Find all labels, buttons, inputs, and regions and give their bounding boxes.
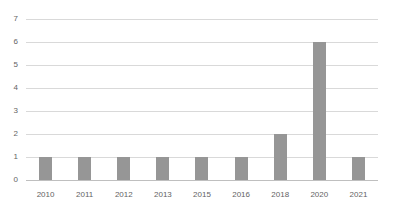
bar-2010 — [39, 157, 52, 180]
gridline-0 — [26, 180, 378, 181]
x-axis-tick-label: 2018 — [271, 190, 289, 199]
bar-slot — [182, 19, 221, 180]
bar-2015 — [195, 157, 208, 180]
bar-slot — [300, 19, 339, 180]
x-axis-tick: 2013 — [143, 183, 182, 201]
bar-slot — [26, 19, 65, 180]
x-axis-tick-label: 2012 — [115, 190, 133, 199]
bar-2020 — [313, 42, 326, 180]
bar-2013 — [156, 157, 169, 180]
y-axis-tick-label: 4 — [14, 84, 18, 92]
x-axis-tick-label: 2020 — [310, 190, 328, 199]
y-axis-tick-label: 1 — [14, 153, 18, 161]
bar-slot — [261, 19, 300, 180]
x-axis-tick-label: 2021 — [350, 190, 368, 199]
bar-slot — [104, 19, 143, 180]
bar-slot — [65, 19, 104, 180]
bar-2012 — [117, 157, 130, 180]
bar-slot — [339, 19, 378, 180]
x-axis-tick: 2010 — [26, 183, 65, 201]
x-axis-tick: 2016 — [222, 183, 261, 201]
x-axis-tick: 2021 — [339, 183, 378, 201]
x-axis-tick-label: 2016 — [232, 190, 250, 199]
y-axis-tick-label: 6 — [14, 38, 18, 46]
x-axis-tick: 2011 — [65, 183, 104, 201]
y-axis-tick-label: 0 — [14, 176, 18, 184]
bar-slot — [222, 19, 261, 180]
bar-2011 — [78, 157, 91, 180]
y-axis: 01234567 — [0, 19, 24, 180]
x-axis-tick-label: 2013 — [154, 190, 172, 199]
x-axis: 201020112012201320152016201820202021 — [26, 183, 378, 201]
bars-layer — [26, 19, 378, 180]
y-axis-tick-label: 5 — [14, 61, 18, 69]
x-axis-tick-label: 2011 — [76, 190, 93, 199]
x-axis-tick: 2015 — [182, 183, 221, 201]
x-axis-tick: 2012 — [104, 183, 143, 201]
bar-chart: 01234567 2010201120122013201520162018202… — [0, 0, 393, 209]
plot-area — [26, 19, 378, 180]
bar-2021 — [352, 157, 365, 180]
x-axis-tick-label: 2015 — [193, 190, 211, 199]
bar-slot — [143, 19, 182, 180]
y-axis-tick-label: 2 — [14, 130, 18, 138]
x-axis-tick: 2018 — [261, 183, 300, 201]
x-axis-tick: 2020 — [300, 183, 339, 201]
y-axis-tick-label: 3 — [14, 107, 18, 115]
x-axis-tick-label: 2010 — [37, 190, 55, 199]
bar-2018 — [274, 134, 287, 180]
y-axis-tick-label: 7 — [14, 15, 18, 23]
bar-2016 — [235, 157, 248, 180]
